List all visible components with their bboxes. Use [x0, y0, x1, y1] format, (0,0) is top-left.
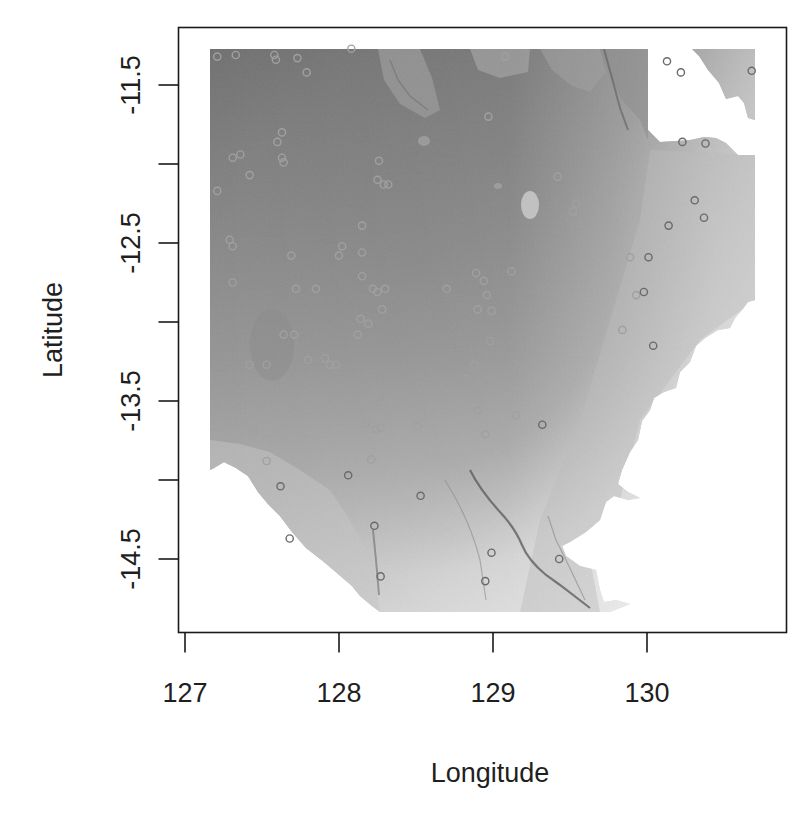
survey-point-marker — [677, 69, 684, 76]
x-tick-label: 128 — [316, 678, 361, 708]
x-tick-label: 129 — [470, 678, 515, 708]
x-axis-title: Longitude — [431, 758, 550, 788]
y-axis: -11.5-12.5-13.5-14.5 — [116, 55, 179, 590]
x-axis: 127128129130 — [162, 633, 669, 709]
survey-point-marker — [286, 535, 293, 542]
bathymetry-raster — [210, 49, 755, 612]
y-tick-label: -11.5 — [116, 55, 146, 115]
y-tick-label: -12.5 — [116, 212, 146, 274]
x-tick-label: 127 — [162, 678, 207, 708]
x-tick-label: 130 — [624, 678, 669, 708]
y-axis-title: Latitude — [38, 282, 68, 378]
y-tick-label: -13.5 — [116, 370, 146, 432]
map-plot: 127128129130 -11.5-12.5-13.5-14.5 Longit… — [0, 0, 812, 816]
survey-point-marker — [663, 58, 670, 65]
y-tick-label: -14.5 — [116, 528, 146, 590]
